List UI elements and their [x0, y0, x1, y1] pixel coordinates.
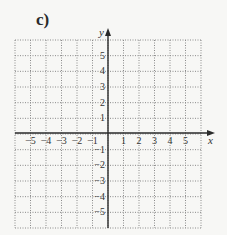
y-tick-label: 1	[100, 112, 105, 123]
x-tick-label: 4	[168, 135, 173, 146]
y-tick-label: 4	[100, 65, 105, 76]
x-tick-label: −3	[56, 135, 67, 146]
x-tick-label: 2	[137, 135, 142, 146]
coordinate-grid: xy−5−4−3−2−11234554321−1−2−3−4−5	[0, 0, 227, 235]
y-tick-label: −2	[94, 159, 105, 170]
y-tick-label: −3	[94, 175, 105, 186]
x-tick-label: −2	[72, 135, 83, 146]
y-axis-label: y	[98, 26, 104, 38]
x-tick-label: 5	[183, 135, 188, 146]
x-tick-label: 3	[152, 135, 157, 146]
y-axis-arrow-icon	[105, 28, 111, 36]
y-tick-label: 3	[100, 81, 105, 92]
x-axis-label: x	[207, 134, 213, 146]
x-tick-label: −4	[41, 135, 52, 146]
y-tick-label: 5	[100, 50, 105, 61]
y-tick-label: 2	[100, 97, 105, 108]
y-tick-label: −1	[94, 144, 105, 155]
x-tick-label: 1	[121, 135, 126, 146]
y-tick-label: −5	[94, 206, 105, 217]
y-tick-label: −4	[94, 191, 105, 202]
x-tick-label: −5	[25, 135, 36, 146]
